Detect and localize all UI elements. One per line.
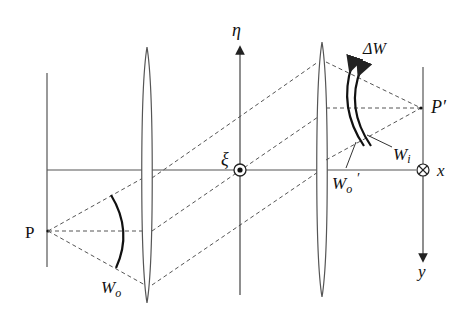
image-wavefront-label-sub: i <box>407 152 410 166</box>
ray-image-upper <box>326 62 421 108</box>
wavefront-error-label: ΔW <box>362 40 387 57</box>
relayed-wavefront-label-sub: o <box>346 182 352 196</box>
ray-object-upper <box>48 178 143 231</box>
object-wavefront-label-sub: o <box>115 286 121 300</box>
ray-relay-lower <box>152 172 318 285</box>
object-point-label: P <box>25 223 34 242</box>
lens-2 <box>317 42 328 297</box>
lens-1 <box>142 47 153 303</box>
eta-axis-label: η <box>232 20 241 40</box>
xi-origin-dot <box>237 167 242 172</box>
image-point-marker <box>419 106 422 109</box>
image-point-label: P′ <box>430 97 447 117</box>
optical-diagram: P Wo η ξ ΔW P′ Wi Wo′ x y <box>0 0 473 321</box>
x-axis-label: x <box>436 161 445 180</box>
image-wavefront-label: Wi <box>393 145 411 166</box>
y-axis-label: y <box>416 262 426 281</box>
relayed-wavefront-label-prime: ′ <box>356 171 360 186</box>
relayed-wavefront-label: Wo′ <box>332 171 360 196</box>
ray-relay-upper <box>152 62 318 178</box>
xi-axis-label: ξ <box>221 149 229 169</box>
object-wavefront-label: Wo <box>101 278 121 300</box>
ray-object-lower <box>48 231 145 285</box>
